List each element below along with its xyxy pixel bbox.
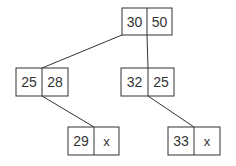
node-right-key-2: 25 <box>153 74 169 90</box>
node-left-key-2: 28 <box>47 74 63 90</box>
node-left-key-1: 25 <box>21 74 37 90</box>
tree-diagram: 30 50 25 28 32 25 29 x 33 x <box>0 0 236 166</box>
node-left-child: 29 x <box>68 127 119 155</box>
node-root: 30 50 <box>122 8 172 35</box>
edge-root-right <box>147 35 148 68</box>
node-right-key-1: 32 <box>127 74 143 90</box>
edge-left-leftchild <box>42 96 94 127</box>
node-left-child-key-1: 29 <box>73 133 89 149</box>
node-root-key-1: 30 <box>127 14 143 30</box>
node-right: 32 25 <box>121 68 174 96</box>
node-left-child-key-2: x <box>103 134 110 149</box>
node-right-child-key-2: x <box>204 134 211 149</box>
node-right-child-key-1: 33 <box>173 133 189 149</box>
edge-right-rightchild <box>148 96 194 127</box>
node-left: 25 28 <box>16 68 68 96</box>
node-root-key-2: 50 <box>152 14 168 30</box>
node-right-child: 33 x <box>168 127 220 155</box>
edge-root-left <box>42 35 122 68</box>
